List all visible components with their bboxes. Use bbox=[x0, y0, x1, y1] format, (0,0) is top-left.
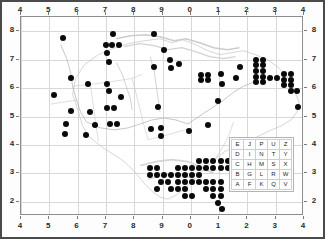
axis-left-label: 5 bbox=[8, 111, 16, 120]
axis-right-label: 8 bbox=[310, 25, 318, 34]
occurrence-dot bbox=[154, 165, 160, 171]
grid-letter-cell: N bbox=[256, 150, 268, 160]
occurrence-dot bbox=[189, 172, 195, 178]
grid-letter-cell: L bbox=[256, 170, 268, 180]
axis-right-label: 7 bbox=[310, 54, 318, 63]
grid-letter-cell: M bbox=[256, 160, 268, 170]
occurrence-dot bbox=[182, 165, 188, 171]
occurrence-dot bbox=[203, 158, 209, 164]
axis-tick bbox=[77, 12, 78, 15]
axis-tick bbox=[304, 30, 307, 31]
axis-tick bbox=[48, 216, 49, 219]
occurrence-dot bbox=[294, 88, 300, 94]
axis-tick bbox=[20, 12, 21, 15]
grid-letter-cell: V bbox=[280, 180, 292, 190]
occurrence-dot bbox=[168, 172, 174, 178]
grid-letter-row: DINTY bbox=[232, 150, 292, 160]
occurrence-dot bbox=[205, 77, 211, 83]
axis-tick bbox=[190, 12, 191, 15]
grid-letter-cell: P bbox=[256, 140, 268, 150]
occurrence-dot bbox=[161, 172, 167, 178]
axis-tick bbox=[16, 59, 19, 60]
axis-left-label: 4 bbox=[8, 139, 16, 148]
grid-letter-cell: I bbox=[244, 150, 256, 160]
grid-letter-cell: Z bbox=[280, 140, 292, 150]
axis-tick bbox=[304, 87, 307, 88]
occurrence-dot bbox=[85, 81, 91, 87]
axis-tick bbox=[16, 116, 19, 117]
occurrence-dot bbox=[175, 172, 181, 178]
grid-letter-cell: B bbox=[232, 170, 244, 180]
occurrence-dot bbox=[110, 31, 116, 37]
axis-left-label: 2 bbox=[8, 196, 16, 205]
occurrence-dot bbox=[155, 104, 161, 110]
axis-bottom-label: 0 bbox=[185, 221, 195, 230]
occurrence-dot bbox=[147, 165, 153, 171]
occurrence-dot bbox=[218, 71, 224, 77]
grid-letter-cell: R bbox=[268, 170, 280, 180]
axis-tick bbox=[105, 12, 106, 15]
occurrence-dot bbox=[295, 104, 301, 110]
axis-left-label: 3 bbox=[8, 167, 16, 176]
occurrence-dot bbox=[68, 75, 74, 81]
axis-left-label: 8 bbox=[8, 25, 16, 34]
axis-tick bbox=[246, 216, 247, 219]
occurrence-dot bbox=[147, 172, 153, 178]
axis-right-label: 6 bbox=[310, 82, 318, 91]
grid-letter-row: EJPUZ bbox=[232, 140, 292, 150]
occurrence-dot bbox=[218, 179, 224, 185]
occurrence-dot bbox=[196, 165, 202, 171]
grid-letter-row: CHMSX bbox=[232, 160, 292, 170]
occurrence-dot bbox=[106, 88, 112, 94]
axis-bottom-label: 9 bbox=[157, 221, 167, 230]
axis-tick bbox=[304, 201, 307, 202]
occurrence-dot bbox=[218, 186, 224, 192]
grid-letter-cell: T bbox=[268, 150, 280, 160]
occurrence-dot bbox=[62, 131, 68, 137]
axis-left-label: 6 bbox=[8, 82, 16, 91]
occurrence-dot bbox=[154, 186, 160, 192]
axis-right-label: 3 bbox=[310, 167, 318, 176]
axis-tick bbox=[304, 59, 307, 60]
occurrence-dot bbox=[218, 158, 224, 164]
axis-tick bbox=[304, 172, 307, 173]
axis-tick bbox=[275, 12, 276, 15]
occurrence-dot bbox=[219, 206, 225, 212]
grid-letter-row: BGLRW bbox=[232, 170, 292, 180]
axis-tick bbox=[133, 216, 134, 219]
grid-letter-cell: D bbox=[232, 150, 244, 160]
grid-letter-cell: S bbox=[268, 160, 280, 170]
axis-right-label: 4 bbox=[310, 139, 318, 148]
axis-tick bbox=[246, 12, 247, 15]
occurrence-dot bbox=[158, 125, 164, 131]
axis-right-label: 5 bbox=[310, 111, 318, 120]
axis-tick bbox=[77, 216, 78, 219]
grid-letter-cell: E bbox=[232, 140, 244, 150]
occurrence-dot bbox=[51, 92, 57, 98]
occurrence-dot bbox=[83, 132, 89, 138]
occurrence-dot bbox=[218, 193, 224, 199]
axis-tick bbox=[105, 216, 106, 219]
occurrence-dot bbox=[189, 165, 195, 171]
occurrence-dot bbox=[218, 165, 224, 171]
axis-tick bbox=[48, 12, 49, 15]
occurrence-dot bbox=[107, 121, 113, 127]
axis-tick bbox=[16, 201, 19, 202]
axis-bottom-label: 7 bbox=[100, 221, 110, 230]
axis-tick bbox=[133, 12, 134, 15]
occurrence-dot bbox=[182, 172, 188, 178]
axis-bottom-label: 5 bbox=[43, 221, 53, 230]
axis-tick bbox=[303, 12, 304, 15]
axis-tick bbox=[275, 216, 276, 219]
axis-bottom-label: 1 bbox=[213, 221, 223, 230]
map-plot-area[interactable]: EJPUZDINTYCHMSXBGLRWAFKQV bbox=[20, 16, 303, 215]
axis-left-label: 7 bbox=[8, 54, 16, 63]
occurrence-dot bbox=[219, 81, 225, 87]
occurrence-dot bbox=[92, 122, 98, 128]
axis-tick bbox=[16, 172, 19, 173]
grid-letter-key: EJPUZDINTYCHMSXBGLRWAFKQV bbox=[229, 137, 294, 192]
occurrence-dot bbox=[165, 179, 171, 185]
occurrence-dot bbox=[104, 50, 110, 56]
occurrence-dot bbox=[196, 158, 202, 164]
grid-letter-cell: Q bbox=[268, 180, 280, 190]
